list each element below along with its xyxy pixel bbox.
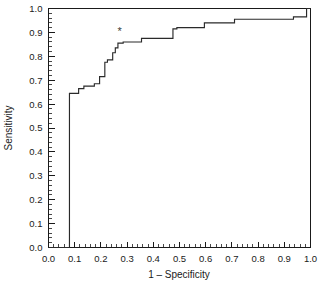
y-tick-label: 0.3 — [29, 170, 42, 181]
y-axis-title: Sensitivity — [3, 105, 14, 150]
y-tick-label: 0.0 — [29, 242, 42, 253]
figure-background — [0, 0, 318, 287]
y-tick-label: 0.9 — [29, 27, 42, 38]
x-tick-label: 0.6 — [199, 253, 212, 264]
x-axis-title: 1 – Specificity — [148, 269, 210, 280]
x-tick-label: 0.8 — [251, 253, 264, 264]
x-tick-label: 0.3 — [120, 253, 133, 264]
y-tick-label: 0.6 — [29, 99, 42, 110]
y-tick-label: 0.7 — [29, 75, 42, 86]
x-tick-label: 0.5 — [173, 253, 186, 264]
x-tick-label: 0.4 — [147, 253, 160, 264]
y-tick-label: 0.4 — [29, 146, 42, 157]
roc-plot-canvas: 0.00.10.20.30.40.50.60.70.80.91.0 0.00.1… — [0, 0, 318, 287]
x-tick-label: 0.7 — [225, 253, 238, 264]
optimal-cutpoint-marker: * — [118, 25, 123, 37]
x-tick-label: 0.2 — [94, 253, 107, 264]
x-tick-label: 0.0 — [42, 253, 55, 264]
roc-curve-figure: 0.00.10.20.30.40.50.60.70.80.91.0 0.00.1… — [0, 0, 318, 287]
y-tick-label: 0.2 — [29, 194, 42, 205]
y-tick-label: 1.0 — [29, 3, 42, 14]
y-tick-label: 0.5 — [29, 122, 42, 133]
x-tick-label: 0.1 — [68, 253, 81, 264]
y-tick-label: 0.1 — [29, 218, 42, 229]
x-tick-label: 0.9 — [278, 253, 291, 264]
annotation-group: * — [118, 25, 123, 37]
y-tick-label: 0.8 — [29, 51, 42, 62]
x-tick-label: 1.0 — [304, 253, 317, 264]
